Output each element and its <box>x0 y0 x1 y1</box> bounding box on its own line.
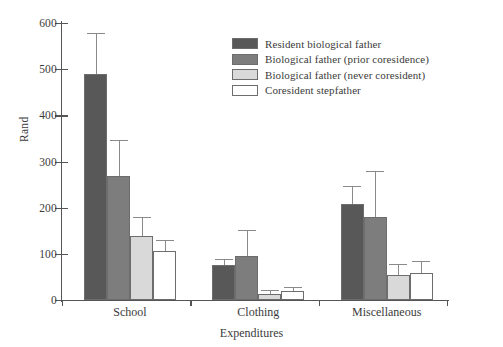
legend-label-0: Resident biological father <box>265 38 381 50</box>
error-bar-cap-clothing-3 <box>284 287 302 288</box>
x-tick-1 <box>190 300 191 306</box>
legend-label-3: Coresident stepfather <box>265 84 361 96</box>
error-bar-cap-miscellaneous-2 <box>389 264 407 265</box>
bar-miscellaneous-series-1 <box>364 217 387 300</box>
y-tick-inner-400 <box>62 115 68 116</box>
x-group-label-school: School <box>113 305 146 320</box>
bar-clothing-series-2 <box>258 294 281 300</box>
legend-item-1: Biological father (prior coresidence) <box>232 52 429 67</box>
error-bar-line-school-1 <box>119 140 120 176</box>
error-bar-line-miscellaneous-0 <box>352 186 353 204</box>
bar-school-series-3 <box>153 251 176 300</box>
error-bar-cap-school-1 <box>110 140 128 141</box>
y-axis-title: Rand <box>18 117 30 142</box>
y-tick-label-100: 100 <box>39 248 57 260</box>
x-axis-line <box>61 300 449 301</box>
bar-school-series-2 <box>130 236 153 300</box>
legend-swatch-icon-1 <box>232 54 258 65</box>
bar-miscellaneous-series-0 <box>341 204 364 300</box>
y-tick-label-0: 0 <box>51 294 57 306</box>
y-tick-inner-500 <box>62 69 68 70</box>
error-bar-line-school-3 <box>165 240 166 252</box>
legend-item-2: Biological father (never coresident) <box>232 67 429 82</box>
x-tick-end <box>447 300 448 306</box>
bar-clothing-series-0 <box>212 265 235 300</box>
bar-miscellaneous-series-3 <box>410 273 433 300</box>
y-tick-label-200: 200 <box>39 202 57 214</box>
y-tick-label-300: 300 <box>39 156 57 168</box>
bar-chart-figure: Rand 0100200300400500600 SchoolClothingM… <box>0 0 503 347</box>
legend-label-1: Biological father (prior coresidence) <box>265 53 429 65</box>
legend-item-0: Resident biological father <box>232 36 429 51</box>
error-bar-line-miscellaneous-1 <box>375 171 376 217</box>
error-bar-cap-clothing-0 <box>215 259 233 260</box>
error-bar-cap-clothing-2 <box>261 290 279 291</box>
y-tick-inner-600 <box>62 23 68 24</box>
y-tick-label-400: 400 <box>39 109 57 121</box>
y-tick-inner-300 <box>62 162 68 163</box>
error-bar-line-school-2 <box>142 217 143 236</box>
error-bar-cap-school-0 <box>87 33 105 34</box>
error-bar-cap-school-2 <box>133 217 151 218</box>
x-group-label-miscellaneous: Miscellaneous <box>352 305 421 320</box>
error-bar-line-miscellaneous-2 <box>398 264 399 275</box>
error-bar-cap-clothing-1 <box>238 230 256 231</box>
legend-label-2: Biological father (never coresident) <box>265 69 425 81</box>
bar-school-series-1 <box>107 176 130 300</box>
legend-swatch-icon-0 <box>232 38 258 49</box>
legend-item-3: Coresident stepfather <box>232 83 429 98</box>
legend: Resident biological father Biological fa… <box>232 36 429 98</box>
y-tick-inner-100 <box>62 254 68 255</box>
error-bar-line-clothing-1 <box>247 230 248 256</box>
x-axis-title: Expenditures <box>0 326 503 341</box>
y-tick-inner-200 <box>62 208 68 209</box>
error-bar-line-miscellaneous-3 <box>421 261 422 273</box>
x-tick-0 <box>62 300 63 306</box>
error-bar-cap-miscellaneous-1 <box>366 171 384 172</box>
bar-miscellaneous-series-2 <box>387 275 410 300</box>
bar-school-series-0 <box>84 74 107 300</box>
error-bar-cap-miscellaneous-0 <box>343 186 361 187</box>
y-tick-label-500: 500 <box>39 63 57 75</box>
x-tick-2 <box>319 300 320 306</box>
error-bar-cap-miscellaneous-3 <box>412 261 430 262</box>
legend-swatch-icon-3 <box>232 85 258 96</box>
legend-swatch-icon-2 <box>232 69 258 80</box>
error-bar-cap-school-3 <box>156 240 174 241</box>
x-group-label-clothing: Clothing <box>237 305 279 320</box>
bar-clothing-series-3 <box>281 291 304 300</box>
bar-clothing-series-1 <box>235 256 258 300</box>
error-bar-line-school-0 <box>96 33 97 74</box>
y-tick-label-600: 600 <box>39 17 57 29</box>
